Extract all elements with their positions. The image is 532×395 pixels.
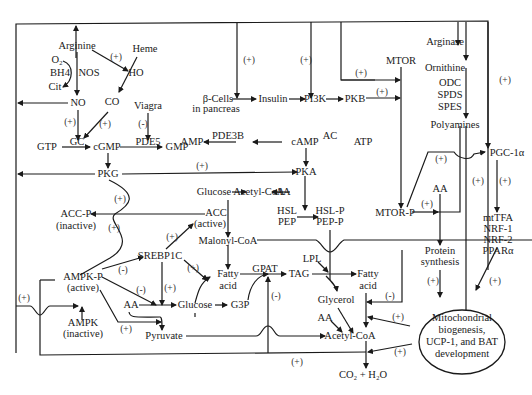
node-acc-p-state: (inactive) [56,220,96,232]
node-ampk-state: (inactive) [63,328,103,340]
enzyme-lpl: LPL [303,253,322,265]
sign-plus: (+) [472,176,484,186]
mito-text-4: development [435,348,489,360]
node-co2-h2o: CO₂ + H₂O [339,369,387,381]
node-fatty-acid-1-suffix: acid [219,280,237,292]
node-gtp: GTP [37,141,57,153]
enzyme-gpat: GPAT [252,263,277,275]
node-fatty-acid-1: Fatty [217,268,239,280]
enzyme-spds: SPDS [437,89,462,101]
node-bh4: BH4 [50,67,70,79]
mito-text-3: UCP-1, and BAT [426,336,498,348]
node-mtor: MTOR [386,55,416,67]
sign-plus: (+) [427,276,439,286]
node-pgc1a: PGC-1α [490,147,525,159]
sign-minus: (-) [138,119,148,129]
node-ampk-p: AMPK-P [63,271,103,283]
enzyme-pep: PEP [278,216,296,228]
sign-plus: (+) [499,176,511,186]
node-cgmp: cGMP [93,141,120,153]
node-ppara: PPARα [483,245,514,257]
node-ornithine: Ornithine [425,62,465,74]
node-acc-state: (active) [194,218,226,230]
node-amp: AMP [181,136,204,148]
enzyme-arginase: Arginase [426,36,464,48]
sign-plus: (+) [421,199,433,209]
node-tag: TAG [289,268,310,280]
node-ampk: AMPK [68,317,98,329]
sign-plus: (+) [394,347,406,357]
sign-minus: (-) [271,291,281,301]
node-aa-mtor: AA [432,183,447,195]
sign-plus: (+) [99,119,111,129]
sign-plus: (+) [64,117,76,127]
node-acc-p: ACC-P [61,208,92,220]
node-ampk-p-state: (active) [67,282,99,294]
node-malonyl-coa: Malonyl-CoA [199,235,258,247]
sign-plus: (+) [187,263,199,273]
sign-plus: (+) [166,232,178,242]
node-protein: Protein [425,245,455,257]
node-cit: Cit [49,81,62,93]
enzyme-gc: GC [70,136,85,148]
node-fatty-acid-2-suffix: acid [359,280,377,292]
node-fatty-acid-2: Fatty [357,268,379,280]
sign-minus: (-) [118,265,128,275]
node-glycerol: Glycerol [318,294,355,306]
enzyme-pde3b: PDE3B [212,130,244,142]
node-acc: ACC [205,207,227,219]
sign-plus: (+) [243,55,255,65]
mito-text-2: biogenesis, [439,324,486,336]
sign-plus: (+) [392,312,404,322]
enzyme-pep-p: PEP-P [316,216,343,228]
pathway-diagram: Arginine Heme O₂ BH4 NOS Cit HO NO CO Vi… [0,0,532,395]
sign-plus: (+) [196,161,208,171]
node-glucose: Glucose [178,299,212,311]
node-viagra: Viagra [134,100,162,112]
sign-plus: (+) [376,87,388,97]
sign-plus: (+) [435,154,447,164]
node-pka: PKA [295,166,316,178]
sign-minus: (-) [136,285,146,295]
node-aa-top: AA [275,186,290,198]
node-g3p: G3P [231,299,250,311]
enzyme-hsl: HSL [277,205,297,217]
node-pi3k: PI3K [304,93,326,105]
sign-plus: (+) [164,283,176,293]
node-o2: O₂ [51,54,62,66]
node-heme: Heme [132,43,157,55]
sign-plus: (+) [114,194,126,204]
node-aa-bottom: AA [317,312,332,324]
node-synthesis: synthesis [421,256,460,268]
node-pkb: PKB [345,93,365,105]
sign-plus: (+) [108,223,120,233]
sign-plus: (+) [499,75,511,85]
sign-plus: (+) [489,276,501,286]
node-acetyl-coa: Acetyl-CoA [324,330,375,342]
sign-plus: (+) [355,68,367,78]
enzyme-nos: NOS [78,67,99,79]
node-no: NO [70,97,85,109]
node-srebp1c: SREBP1C [138,250,182,262]
sign-plus: (+) [120,324,132,334]
node-camp: cAMP [291,136,318,148]
node-atp: ATP [354,136,373,148]
node-mttfa: mtTFA [483,212,513,224]
node-mtor-p: MTOR-P [375,207,414,219]
sign-plus: (+) [291,357,303,367]
enzyme-ho: HO [128,67,143,79]
node-nrf1: NRF-1 [483,223,512,235]
sign-plus: (+) [110,52,122,62]
node-pkg: PKG [97,168,118,180]
node-arginine: Arginine [58,40,95,52]
enzyme-odc: ODC [439,77,461,89]
node-co: CO [105,96,120,108]
enzyme-pde5: PDE5 [135,136,160,148]
node-insulin: Insulin [258,93,287,105]
node-aa-glucose: AA [123,299,138,311]
sign-minus: (-) [385,291,395,301]
mito-text-1: Mitochondrial [432,312,492,324]
sign-plus: (+) [18,293,30,303]
node-glucose-top: Glucose [197,186,231,198]
node-pyruvate: Pyruvate [145,330,182,342]
